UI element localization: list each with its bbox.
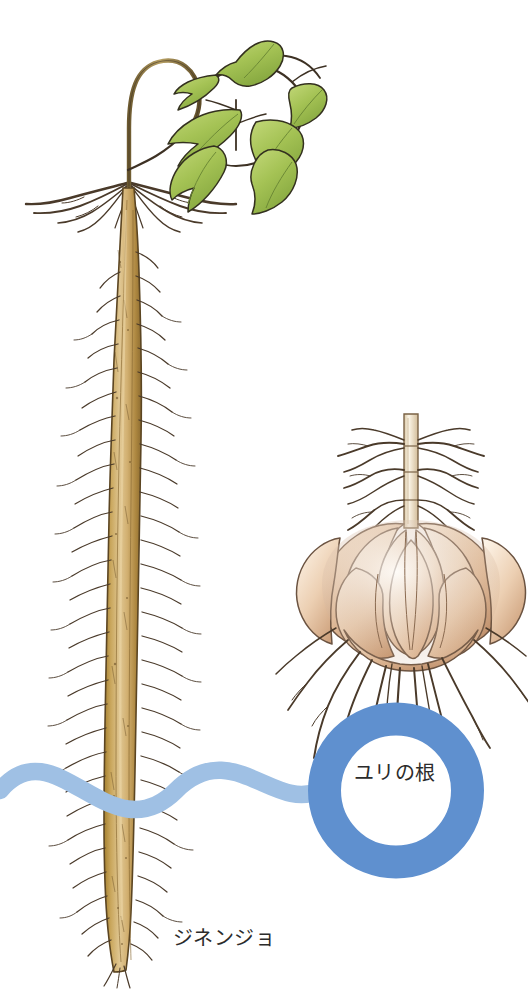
thread-pin-icon: [0, 296, 48, 322]
caption-lily-root: ユリの根: [349, 763, 436, 783]
caption-japanese-yam: ジネンジョ: [168, 928, 275, 948]
yam-leaves: [168, 41, 327, 214]
illustration-canvas: ユリの根 ジネンジョ: [0, 0, 528, 989]
